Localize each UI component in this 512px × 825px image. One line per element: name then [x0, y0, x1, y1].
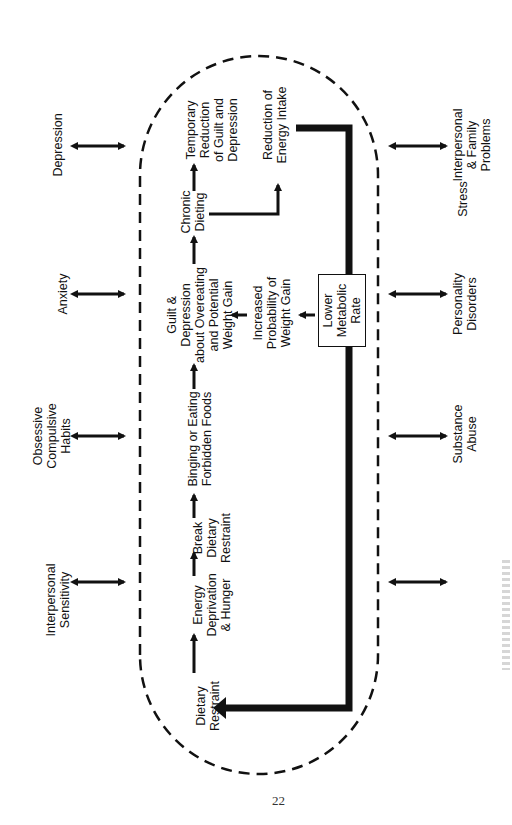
- node-lower-metabolic-rate: Lower Metabolic Rate: [318, 274, 366, 347]
- node-guilt-depression: Guilt & Depression about Overeating and …: [165, 267, 235, 363]
- factor-depression: Depression: [51, 113, 65, 176]
- figure-caption-faint: [502, 560, 510, 670]
- dashed-capsule-boundary: [140, 56, 378, 774]
- diagram-canvas: Dietary Restraint Energy Deprivation & H…: [0, 0, 512, 825]
- node-increased-probability: Increased Probability of Weight Gain: [251, 277, 293, 349]
- page-number: 22: [272, 793, 285, 809]
- node-chronic-dieting: Chronic Dieting: [179, 190, 207, 233]
- factor-personality-disorders: Personality Disorders: [451, 273, 479, 335]
- factor-interpersonal-sensitivity: Interpersonal Sensitivity: [44, 564, 72, 637]
- external-double-arrows: [76, 146, 446, 582]
- arrow-chronic-to-reduction: [209, 185, 278, 214]
- node-reduction-energy-intake: Reduction of Energy Intake: [261, 86, 289, 163]
- factor-obsessive-compulsive: Obsessive Compulsive Habits: [31, 403, 73, 468]
- factor-stress-label: Stress: [456, 181, 470, 216]
- factor-anxiety: Anxiety: [56, 274, 70, 315]
- factor-stress: Stress: [456, 181, 470, 216]
- node-dietary-restraint: Dietary Restraint: [194, 681, 222, 731]
- factor-interpersonal-family: Interpersonal & Family Problems: [451, 109, 493, 182]
- node-energy-deprivation: Energy Deprivation & Hunger: [191, 573, 233, 636]
- node-binging: Binging or Eating Forbidden Foods: [186, 391, 214, 486]
- diagram-graphics: [0, 0, 512, 825]
- factor-substance-abuse: Substance Abuse: [451, 404, 479, 463]
- node-break-restraint: Break Dietary Restraint: [191, 513, 233, 563]
- node-temporary-reduction: Temporary Reduction of Guilt and Depress…: [184, 98, 240, 162]
